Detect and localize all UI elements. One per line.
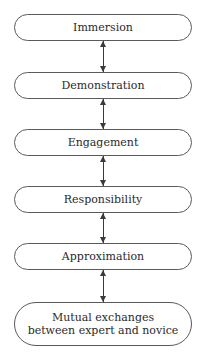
node-label: Responsibility	[64, 193, 143, 206]
node-label: Mutual exchanges between expert and novi…	[27, 311, 179, 337]
node-label: Demonstration	[62, 79, 145, 92]
bidirectional-arrow-icon	[103, 41, 104, 72]
bidirectional-arrow-icon	[103, 156, 104, 186]
node-label: Engagement	[68, 136, 139, 149]
node-label: Immersion	[73, 21, 133, 34]
bidirectional-arrow-icon	[103, 270, 104, 302]
bidirectional-arrow-icon	[103, 213, 104, 243]
node-mutual-exchanges: Mutual exchanges between expert and novi…	[14, 302, 192, 346]
node-approximation: Approximation	[14, 243, 192, 270]
node-label: Approximation	[62, 250, 144, 263]
node-engagement: Engagement	[14, 129, 192, 156]
node-immersion: Immersion	[14, 14, 192, 41]
node-responsibility: Responsibility	[14, 186, 192, 213]
node-demonstration: Demonstration	[14, 72, 192, 99]
bidirectional-arrow-icon	[103, 99, 104, 129]
